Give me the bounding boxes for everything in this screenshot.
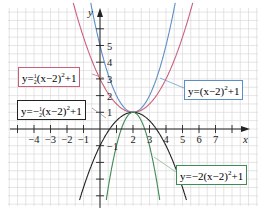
label-half-negative: y=−12(x−2)2+1: [17, 100, 86, 120]
label-unit-positive: y=(x−2)2+1: [184, 80, 243, 100]
svg-text:4: 4: [163, 134, 169, 145]
svg-text:7: 7: [213, 134, 218, 145]
svg-text:4: 4: [107, 57, 113, 68]
svg-text:2: 2: [107, 91, 112, 102]
svg-text:3: 3: [107, 74, 112, 85]
svg-text:−1: −1: [107, 141, 118, 152]
svg-text:−2: −2: [61, 134, 72, 145]
svg-text:y: y: [87, 6, 93, 18]
svg-text:6: 6: [196, 134, 201, 145]
svg-text:−1: −1: [78, 134, 89, 145]
label-half-positive: y=12(x−2)2+1: [18, 67, 80, 87]
svg-text:1: 1: [107, 107, 112, 118]
svg-text:3: 3: [147, 134, 152, 145]
svg-text:2: 2: [130, 134, 135, 145]
svg-text:−3: −3: [45, 134, 56, 145]
svg-text:5: 5: [180, 134, 185, 145]
label-two-negative: y=−2(x−2)2+1: [176, 165, 247, 185]
svg-text:5: 5: [107, 41, 112, 52]
svg-text:x: x: [242, 133, 248, 145]
svg-text:−4: −4: [28, 134, 40, 145]
